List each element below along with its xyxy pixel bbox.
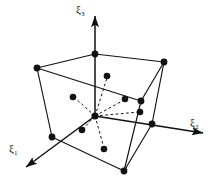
interior-node-plus-xi2	[137, 109, 144, 116]
hexahedron-axes-figure: ξ3 ξ2 ξ1	[0, 0, 215, 184]
cube-vertex-top-back-right	[161, 59, 168, 66]
cube-vertex-top-front-right	[138, 98, 145, 105]
spoke-center-to-node-minus-xi3	[95, 116, 104, 148]
cube-vertex-bottom-back-right	[149, 121, 156, 128]
axis-line-xi1	[26, 116, 95, 167]
axis-label-xi1: ξ1	[9, 143, 17, 157]
cube-edge-top-front-left-to-top-back-right	[95, 54, 164, 62]
cube-edge-top-back-left-to-top-front-left	[37, 54, 95, 68]
cube-edge-bottom-left-to-front	[52, 137, 124, 171]
cube-vertex-bottom-back-left	[49, 134, 56, 141]
interior-node-minus-xi1	[122, 96, 129, 103]
interior-node-center	[91, 112, 98, 119]
interior-dashed-spokes	[75, 78, 139, 148]
axis-label-xi2-subscript: 2	[195, 123, 199, 131]
axis-label-xi3-subscript: 3	[81, 10, 85, 18]
axis-label-xi1-subscript: 1	[14, 149, 18, 157]
interior-node-minus-xi3	[101, 146, 108, 153]
cube-vertex-bottom-front	[121, 168, 128, 175]
cube-vertex-top-back-left	[34, 65, 41, 72]
figure-canvas	[0, 0, 215, 184]
interior-node-plus-xi1	[79, 127, 86, 134]
cube-vertex-top-front-left	[92, 51, 99, 58]
coordinate-axes	[26, 16, 203, 167]
spoke-center-to-node-minus-xi1	[95, 100, 124, 116]
spoke-center-to-node-minus-xi2	[75, 98, 95, 116]
axis-label-xi3: ξ3	[76, 4, 84, 18]
interior-node-minus-xi2	[70, 94, 77, 101]
interior-node-plus-xi3	[104, 73, 111, 80]
axis-label-xi2: ξ2	[190, 117, 198, 131]
cube-edge-bottom-front-to-right	[124, 124, 152, 171]
cube-edge-vertical-back-left	[37, 68, 52, 137]
